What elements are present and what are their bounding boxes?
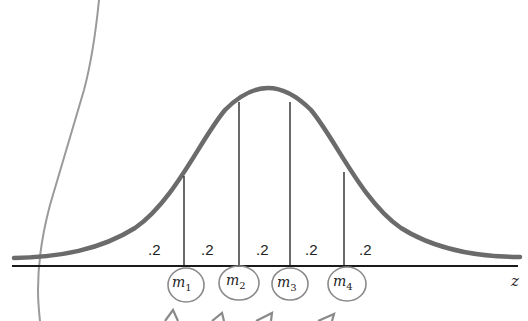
pencil-arrow [318,314,334,321]
area-label: .2 [256,241,269,258]
area-label: .2 [201,241,214,258]
pencil-arrow [256,313,272,321]
boundary-label-m2: m2 [226,272,246,291]
boundary-label-m3: m3 [277,274,297,293]
normal-curve [14,88,520,258]
pencil-arrow [165,310,178,321]
axis-label-z: z [510,272,519,290]
boundary-label-m1: m1 [172,274,192,293]
normal-curve-diagram: .2 .2 .2 .2 .2 m1 m2 m3 m4 z [0,0,528,321]
boundary-label-m4: m4 [333,273,353,292]
pencil-arrow [212,313,224,321]
area-label: .2 [359,241,372,258]
area-label: .2 [148,241,161,258]
pencil-stroke [38,0,99,321]
area-label: .2 [305,241,318,258]
